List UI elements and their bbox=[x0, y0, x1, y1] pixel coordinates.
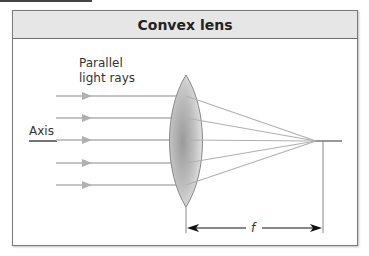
refracted-rays bbox=[186, 96, 316, 185]
incoming-rays bbox=[56, 96, 186, 185]
rays-label-line1: Parallel bbox=[79, 56, 123, 70]
rays-label-line2: light rays bbox=[79, 71, 135, 85]
convex-lens bbox=[170, 75, 203, 207]
axis-label: Axis bbox=[29, 124, 54, 138]
convex-lens-diagram: Parallel light rays Axis f bbox=[0, 0, 369, 256]
ray-arrowheads bbox=[82, 92, 92, 189]
focal-length-label: f bbox=[251, 221, 257, 235]
